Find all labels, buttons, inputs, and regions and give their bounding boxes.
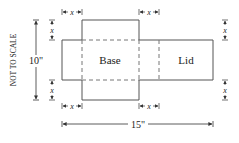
base-label: Base: [99, 54, 121, 66]
cut-label: x: [222, 86, 227, 95]
not-to-scale-label: NOT TO SCALE: [9, 33, 18, 86]
cut-label: x: [222, 26, 227, 35]
height-label: 10": [29, 55, 43, 66]
cut-label: x: [146, 102, 151, 111]
cut-label: x: [49, 26, 54, 35]
box-net-diagram: Base Lid NOT TO SCALE 10" 15" x x: [0, 0, 239, 143]
cut-label: x: [49, 86, 54, 95]
cut-label: x: [69, 102, 74, 111]
cut-label: x: [69, 8, 74, 17]
lid-label: Lid: [178, 54, 194, 66]
width-label: 15": [131, 119, 145, 130]
cut-label: x: [146, 8, 151, 17]
